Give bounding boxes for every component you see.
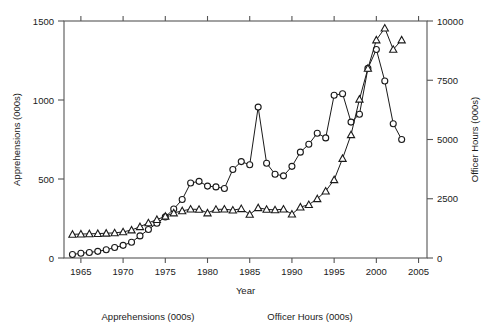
data-point-triangle bbox=[238, 205, 245, 211]
y-tick-label-right: 0 bbox=[437, 253, 442, 264]
data-point-circle bbox=[103, 247, 109, 253]
data-point-circle bbox=[306, 141, 312, 147]
y-tick-label-left: 0 bbox=[49, 253, 54, 264]
data-point-circle bbox=[145, 227, 151, 233]
y-tick-label-right: 10000 bbox=[437, 16, 463, 27]
x-tick-label: 1995 bbox=[324, 266, 345, 277]
data-point-triangle bbox=[331, 176, 338, 182]
data-point-circle bbox=[213, 184, 219, 190]
y-tick-label-right: 2500 bbox=[437, 193, 458, 204]
data-point-circle bbox=[264, 160, 270, 166]
data-point-circle bbox=[382, 78, 388, 84]
data-point-triangle bbox=[381, 25, 388, 31]
data-point-triangle bbox=[347, 131, 354, 137]
dual-axis-line-chart: 1965197019751980198519901995200020050500… bbox=[0, 0, 495, 327]
data-point-triangle bbox=[136, 223, 143, 229]
data-point-circle bbox=[280, 173, 286, 179]
data-point-circle bbox=[255, 104, 261, 110]
data-point-circle bbox=[323, 135, 329, 141]
x-tick-label: 1975 bbox=[155, 266, 176, 277]
x-tick-label: 1970 bbox=[113, 266, 134, 277]
data-point-triangle bbox=[280, 206, 287, 212]
data-point-circle bbox=[247, 162, 253, 168]
data-point-circle bbox=[230, 167, 236, 173]
data-point-circle bbox=[69, 252, 75, 258]
data-point-triangle bbox=[255, 204, 262, 210]
data-point-triangle bbox=[128, 226, 135, 232]
data-point-circle bbox=[179, 197, 185, 203]
x-tick-label: 1965 bbox=[70, 266, 91, 277]
data-point-circle bbox=[196, 178, 202, 184]
data-point-triangle bbox=[153, 216, 160, 222]
series-line-circle bbox=[72, 49, 401, 254]
data-point-triangle bbox=[373, 36, 380, 42]
legend-entry-2: Officer Hours (000s) bbox=[267, 311, 352, 322]
data-point-triangle bbox=[204, 209, 211, 215]
data-point-circle bbox=[340, 91, 346, 97]
chart-figure: 1965197019751980198519901995200020050500… bbox=[0, 0, 495, 327]
x-tick-label: 1980 bbox=[197, 266, 218, 277]
data-point-circle bbox=[86, 249, 92, 255]
y-tick-label-left: 500 bbox=[38, 174, 54, 185]
data-point-circle bbox=[78, 250, 84, 256]
data-point-triangle bbox=[339, 155, 346, 161]
data-point-circle bbox=[129, 239, 135, 245]
series-line-triangle bbox=[72, 28, 401, 234]
data-point-circle bbox=[120, 242, 126, 248]
legend-entry-1: Apprehensions (000s) bbox=[102, 311, 195, 322]
data-point-circle bbox=[297, 149, 303, 155]
y-tick-label-right: 5000 bbox=[437, 134, 458, 145]
data-point-circle bbox=[238, 159, 244, 165]
data-point-circle bbox=[390, 121, 396, 127]
x-tick-label: 2000 bbox=[366, 266, 387, 277]
data-point-triangle bbox=[145, 219, 152, 225]
x-tick-label: 1990 bbox=[281, 266, 302, 277]
data-point-circle bbox=[331, 92, 337, 98]
data-point-circle bbox=[399, 137, 405, 143]
data-point-circle bbox=[221, 185, 227, 191]
y-tick-label-left: 1000 bbox=[33, 95, 54, 106]
data-point-circle bbox=[314, 130, 320, 136]
y-tick-label-right: 7500 bbox=[437, 75, 458, 86]
data-point-circle bbox=[95, 248, 101, 254]
x-tick-label: 1985 bbox=[239, 266, 260, 277]
data-point-circle bbox=[205, 183, 211, 189]
plot-frame bbox=[64, 21, 427, 258]
data-point-triangle bbox=[305, 201, 312, 207]
data-point-triangle bbox=[398, 36, 405, 42]
y-axis-title-right: Officer Hours (000s) bbox=[469, 97, 480, 182]
y-axis-title-left: Apprehensions (000s) bbox=[11, 93, 22, 186]
data-point-circle bbox=[272, 171, 278, 177]
data-point-triangle bbox=[246, 211, 253, 217]
x-tick-label: 2005 bbox=[408, 266, 429, 277]
y-tick-label-left: 1500 bbox=[33, 16, 54, 27]
data-point-circle bbox=[356, 111, 362, 117]
data-point-circle bbox=[112, 245, 118, 251]
data-point-circle bbox=[188, 180, 194, 186]
data-point-circle bbox=[137, 233, 143, 239]
x-axis-title: Year bbox=[236, 285, 255, 296]
data-point-circle bbox=[289, 163, 295, 169]
